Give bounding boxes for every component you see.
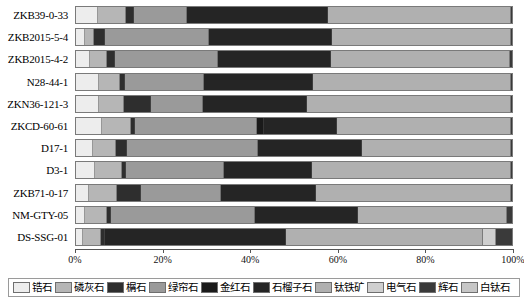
bar-segment[interactable]	[507, 207, 512, 223]
bar-segment[interactable]	[218, 51, 330, 67]
bar-segment[interactable]	[511, 162, 512, 178]
bar-segment[interactable]	[76, 185, 89, 201]
bar-segment[interactable]	[76, 51, 90, 67]
bar-track[interactable]	[75, 73, 513, 91]
bar-segment[interactable]	[76, 162, 95, 178]
bar-segment[interactable]	[264, 118, 336, 134]
bar-segment[interactable]	[107, 51, 116, 67]
legend-item[interactable]: 磷灰石	[55, 282, 104, 293]
bar-segment[interactable]	[358, 207, 507, 223]
bar-segment[interactable]	[98, 7, 126, 23]
bar-segment[interactable]	[99, 74, 121, 90]
bar-segment[interactable]	[511, 29, 512, 45]
bar-segment[interactable]	[511, 74, 512, 90]
bar-segment[interactable]	[141, 185, 220, 201]
bar-segment[interactable]	[151, 96, 204, 112]
bar-segment[interactable]	[85, 29, 94, 45]
bar-segment[interactable]	[511, 185, 512, 201]
bar-segment[interactable]	[93, 140, 116, 156]
bar-segment[interactable]	[316, 185, 511, 201]
bar-segment[interactable]	[83, 229, 101, 245]
bar-segment[interactable]	[511, 96, 512, 112]
bar-segment[interactable]	[125, 74, 204, 90]
bar-segment[interactable]	[209, 29, 332, 45]
legend-item[interactable]: 锆石	[13, 282, 52, 293]
bar-track[interactable]	[75, 6, 513, 24]
bar-segment[interactable]	[115, 51, 218, 67]
bar-segment[interactable]	[95, 162, 122, 178]
bar-segment[interactable]	[135, 118, 257, 134]
bar-segment[interactable]	[76, 7, 98, 23]
bar-track[interactable]	[75, 28, 513, 46]
legend-item[interactable]: 榍石	[107, 282, 146, 293]
bar-segment[interactable]	[76, 118, 102, 134]
legend-item[interactable]: 白钛石	[461, 282, 510, 293]
bar-segment[interactable]	[328, 7, 511, 23]
bar-segment[interactable]	[89, 185, 117, 201]
bar-track[interactable]	[75, 184, 513, 202]
bar-segment[interactable]	[105, 229, 286, 245]
legend-swatch	[315, 282, 332, 293]
bar-row: D3-1	[0, 161, 524, 179]
bar-segment[interactable]	[257, 118, 264, 134]
bar-segment[interactable]	[224, 162, 313, 178]
bar-segment[interactable]	[116, 140, 127, 156]
bar-segment[interactable]	[362, 140, 511, 156]
bar-segment[interactable]	[312, 162, 511, 178]
bar-track[interactable]	[75, 50, 513, 68]
legend-swatch	[461, 282, 478, 293]
bar-segment[interactable]	[76, 207, 85, 223]
bar-segment[interactable]	[511, 7, 512, 23]
bar-segment[interactable]	[124, 96, 151, 112]
bar-category-label: NM-GTY-05	[0, 206, 68, 224]
bar-segment[interactable]	[255, 207, 358, 223]
bar-segment[interactable]	[76, 74, 99, 90]
bar-segment[interactable]	[286, 229, 483, 245]
bar-segment[interactable]	[126, 162, 224, 178]
x-axis-tick	[425, 249, 426, 253]
bar-segment[interactable]	[85, 207, 107, 223]
bar-track[interactable]	[75, 95, 513, 113]
bar-segment[interactable]	[76, 29, 85, 45]
bar-segment[interactable]	[127, 140, 258, 156]
bar-segment[interactable]	[99, 96, 123, 112]
bar-segment[interactable]	[111, 207, 255, 223]
bar-segment[interactable]	[510, 51, 512, 67]
bar-segment[interactable]	[313, 74, 511, 90]
legend-item[interactable]: 绿帘石	[149, 282, 198, 293]
legend-item[interactable]: 辉石	[419, 282, 458, 293]
bar-track[interactable]	[75, 117, 513, 135]
bar-track[interactable]	[75, 206, 513, 224]
bar-segment[interactable]	[76, 140, 93, 156]
bar-segment[interactable]	[511, 140, 512, 156]
bar-segment[interactable]	[76, 96, 99, 112]
bar-track[interactable]	[75, 228, 513, 246]
bar-segment[interactable]	[117, 185, 141, 201]
bar-segment[interactable]	[90, 51, 107, 67]
bar-segment[interactable]	[511, 118, 512, 134]
bar-segment[interactable]	[105, 29, 209, 45]
bar-segment[interactable]	[203, 96, 307, 112]
x-axis-tick	[75, 249, 76, 253]
legend-item[interactable]: 石榴子石	[253, 282, 312, 293]
bar-segment[interactable]	[496, 229, 512, 245]
bar-segment[interactable]	[331, 51, 511, 67]
bar-track[interactable]	[75, 161, 513, 179]
legend-item[interactable]: 钛铁矿	[315, 282, 364, 293]
bar-segment[interactable]	[134, 7, 187, 23]
bar-segment[interactable]	[337, 118, 511, 134]
legend-swatch	[253, 282, 270, 293]
bar-segment[interactable]	[94, 29, 105, 45]
bar-segment[interactable]	[483, 229, 496, 245]
bar-segment[interactable]	[258, 140, 362, 156]
bar-segment[interactable]	[204, 74, 313, 90]
bar-segment[interactable]	[126, 7, 134, 23]
bar-segment[interactable]	[187, 7, 328, 23]
legend-item[interactable]: 电气石	[367, 282, 416, 293]
bar-segment[interactable]	[332, 29, 511, 45]
bar-track[interactable]	[75, 139, 513, 157]
legend-item[interactable]: 金红石	[201, 282, 250, 293]
bar-segment[interactable]	[221, 185, 316, 201]
bar-segment[interactable]	[307, 96, 511, 112]
bar-segment[interactable]	[102, 118, 131, 134]
